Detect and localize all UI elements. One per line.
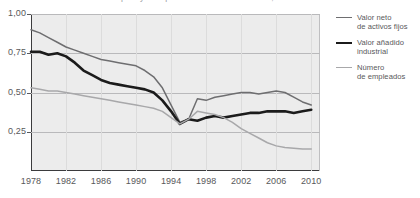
legend-label-line1: Valor neto (357, 13, 392, 22)
chart-figure: Empleo y el capital del total de la indu… (0, 0, 420, 198)
y-axis-tick-label: 0,50 (0, 87, 26, 97)
series-line (31, 88, 311, 149)
legend-item-valor-neto: Valor neto de activos fijos (336, 13, 420, 32)
chart-title: Empleo y el capital del total de la indu… (108, 0, 408, 2)
legend-label-line1: Número (357, 63, 384, 72)
legend-swatch-numero-empleados (336, 67, 352, 68)
x-axis-tick-label: 2010 (291, 176, 331, 186)
x-axis-tick-label: 1982 (46, 176, 86, 186)
legend-label-valor-anadido: Valor añadido industrial (357, 38, 404, 57)
x-axis-tick-label: 2002 (221, 176, 261, 186)
legend-label-line2: industrial (357, 47, 388, 56)
legend-swatch-valor-neto (336, 17, 352, 18)
x-axis-tick-label: 1978 (11, 176, 51, 186)
x-axis-tick-label: 1998 (186, 176, 226, 186)
series-line (31, 52, 311, 124)
legend-item-valor-anadido: Valor añadido industrial (336, 38, 420, 57)
y-axis-tick-label: 1,00 (0, 8, 26, 18)
x-axis-tick-label: 2006 (256, 176, 296, 186)
legend-label-line2: de empleados (357, 72, 405, 81)
series-lines (31, 14, 320, 171)
legend-label-numero-empleados: Número de empleados (357, 63, 405, 82)
x-axis-tick-label: 1990 (116, 176, 156, 186)
x-axis-tick-label: 1994 (151, 176, 191, 186)
x-axis-tick-label: 1986 (81, 176, 121, 186)
y-axis-tick-label: 0,75 (0, 47, 26, 57)
legend-swatch-valor-anadido (336, 42, 352, 44)
chart-legend: Valor neto de activos fijos Valor añadid… (336, 13, 420, 87)
series-line (31, 30, 311, 123)
y-axis-tick-label: 0,25 (0, 126, 26, 136)
legend-label-valor-neto: Valor neto de activos fijos (357, 13, 408, 32)
legend-label-line2: de activos fijos (357, 22, 408, 31)
legend-label-line1: Valor añadido (357, 38, 404, 47)
legend-item-numero-empleados: Número de empleados (336, 63, 420, 82)
